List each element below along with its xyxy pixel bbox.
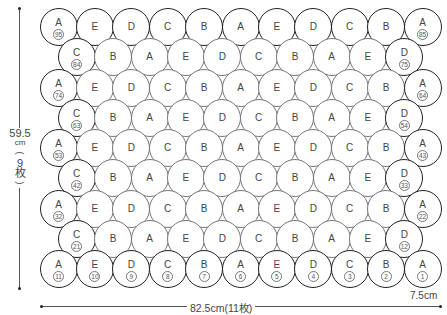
motif-letter: C	[57, 230, 97, 240]
motif-letter: B	[184, 22, 224, 32]
motif-letter: B	[366, 83, 406, 93]
motif-letter: A	[403, 200, 443, 210]
motif-letter: D	[384, 48, 424, 58]
motif-number-badge: 75	[399, 59, 410, 70]
motif-number-badge: 22	[417, 211, 428, 222]
motif-letter: A	[221, 204, 261, 214]
motif-letter: C	[330, 22, 370, 32]
motif-letter: A	[312, 113, 352, 123]
motif-letter: B	[366, 143, 406, 153]
motif-number-badge: 95	[53, 29, 64, 40]
motif-letter: A	[130, 52, 170, 62]
motif-letter: B	[184, 143, 224, 153]
motif-letter: E	[348, 52, 388, 62]
motif-letter: C	[330, 143, 370, 153]
motif-letter: A	[39, 139, 79, 149]
motif-letter: C	[330, 204, 370, 214]
motif-letter: B	[184, 204, 224, 214]
motif-letter: E	[257, 143, 297, 153]
height-paren-close: )	[15, 166, 25, 200]
motif-letter: A	[39, 260, 79, 270]
motif-letter: E	[348, 234, 388, 244]
motif-letter: B	[93, 173, 133, 183]
motif-letter: C	[239, 234, 279, 244]
motif-letter: A	[39, 79, 79, 89]
motif-letter: E	[348, 113, 388, 123]
motif-letter: B	[366, 260, 406, 270]
motif-letter: D	[202, 113, 242, 123]
motif-letter: C	[239, 173, 279, 183]
motif-number-badge: 43	[417, 150, 428, 161]
motif-letter: E	[75, 22, 115, 32]
motif-letter: D	[202, 234, 242, 244]
motif-letter: A	[39, 18, 79, 28]
motif-letter: C	[148, 83, 188, 93]
motif-letter: A	[312, 234, 352, 244]
motif-letter: A	[221, 22, 261, 32]
motif-letter: E	[166, 173, 206, 183]
width-line-right-dot	[439, 305, 442, 308]
motif-letter: D	[293, 143, 333, 153]
motif-letter: D	[293, 83, 333, 93]
motif-letter: D	[293, 22, 333, 32]
motif-letter: A	[403, 18, 443, 28]
motif-letter: E	[166, 113, 206, 123]
motif-letter: D	[111, 83, 151, 93]
motif-letter: E	[166, 52, 206, 62]
motif-letter: D	[202, 52, 242, 62]
motif-letter: C	[57, 169, 97, 179]
motif-number-badge: 9	[126, 271, 137, 282]
motif-letter: A	[130, 173, 170, 183]
motif-number-badge: 6	[235, 271, 246, 282]
height-paren-open: (	[15, 136, 25, 170]
motif-letter: B	[93, 52, 133, 62]
motif-number-badge: 74	[53, 90, 64, 101]
motif-letter: A	[39, 200, 79, 210]
height-line-bottom-dot	[18, 287, 21, 290]
height-line-top-dot	[18, 7, 21, 10]
motif-number-badge: 33	[399, 180, 410, 191]
motif-letter: C	[57, 48, 97, 58]
circle-diameter-label: 7.5cm	[410, 290, 437, 301]
motif-letter: A	[221, 83, 261, 93]
motif-letter: E	[166, 234, 206, 244]
motif-number-badge: 7	[199, 271, 210, 282]
motif-letter: A	[312, 173, 352, 183]
motif-letter: A	[312, 52, 352, 62]
motif-number-badge: 1	[417, 271, 428, 282]
motif-letter: B	[93, 113, 133, 123]
motif-letter: E	[75, 260, 115, 270]
motif-letter: D	[384, 230, 424, 240]
motif-number-badge: 11	[53, 271, 64, 282]
motif-letter: A	[221, 260, 261, 270]
motif-letter: C	[239, 52, 279, 62]
motif-number-badge: 32	[53, 211, 64, 222]
motif-letter: E	[75, 83, 115, 93]
motif-letter: C	[239, 113, 279, 123]
motif-letter: C	[57, 109, 97, 119]
motif-number-badge: 2	[381, 271, 392, 282]
motif-letter: C	[148, 204, 188, 214]
motif-letter: D	[111, 204, 151, 214]
motif-letter: D	[111, 22, 151, 32]
motif-letter: B	[184, 260, 224, 270]
motif-number-badge: 85	[417, 29, 428, 40]
motif-letter: B	[275, 173, 315, 183]
motif-letter: A	[130, 113, 170, 123]
motif-letter: D	[111, 143, 151, 153]
motif-number-badge: 54	[399, 120, 410, 131]
motif-letter: B	[366, 204, 406, 214]
width-dimension-label: 82.5cm(11枚)	[187, 300, 255, 315]
motif-letter: B	[275, 113, 315, 123]
motif-letter: E	[257, 22, 297, 32]
motif-letter: A	[403, 79, 443, 89]
motif-letter: B	[275, 52, 315, 62]
motif-letter: D	[293, 204, 333, 214]
motif-letter: C	[330, 260, 370, 270]
motif-letter: A	[221, 143, 261, 153]
motif-letter: E	[257, 83, 297, 93]
motif-letter: B	[93, 234, 133, 244]
motif-letter: E	[348, 173, 388, 183]
motif-number-badge: 12	[399, 241, 410, 252]
